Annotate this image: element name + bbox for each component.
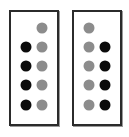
dot-gray bbox=[37, 41, 48, 52]
dot-gray bbox=[83, 79, 94, 90]
dot-black bbox=[20, 79, 31, 90]
dot-gray bbox=[37, 22, 48, 33]
dot-black bbox=[100, 60, 111, 71]
dot-panel-right bbox=[72, 10, 122, 126]
dot-gray bbox=[83, 99, 94, 110]
dot-gray bbox=[37, 99, 48, 110]
dot-grid-right bbox=[74, 12, 120, 124]
dot-gray bbox=[83, 41, 94, 52]
figure-canvas bbox=[0, 0, 129, 137]
dot-empty-slot bbox=[100, 22, 111, 33]
dot-black bbox=[20, 41, 31, 52]
dot-black bbox=[100, 99, 111, 110]
dot-black bbox=[20, 99, 31, 110]
dot-panel-left bbox=[9, 10, 59, 126]
dot-black bbox=[100, 41, 111, 52]
dot-black bbox=[20, 60, 31, 71]
dot-gray bbox=[37, 60, 48, 71]
dot-gray bbox=[37, 79, 48, 90]
dot-grid-left bbox=[11, 12, 57, 124]
dot-gray bbox=[83, 60, 94, 71]
dot-empty-slot bbox=[20, 22, 31, 33]
dot-gray bbox=[83, 22, 94, 33]
dot-black bbox=[100, 79, 111, 90]
